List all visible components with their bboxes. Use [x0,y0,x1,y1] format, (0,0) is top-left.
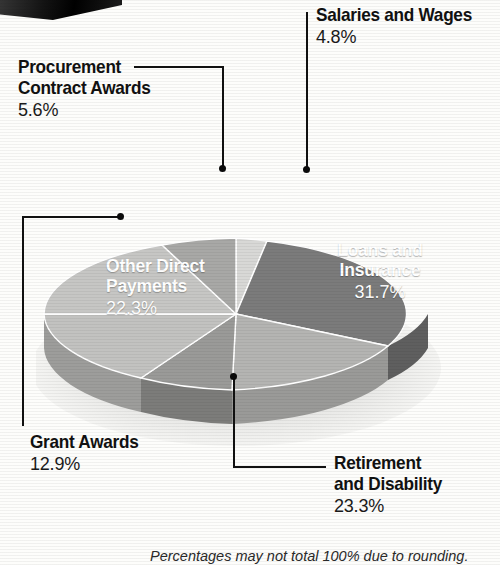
label-grant-awards-title: Grant Awards [30,431,139,452]
label-salaries-and-wages-title: Salaries and Wages [316,4,472,25]
label-procurement-contract-awards-title-line1: Procurement [18,56,151,77]
corner-wedge-decoration [0,0,122,20]
label-loans-and-insurance-title-line1: Loans and [310,240,450,260]
chart-canvas: Salaries and Wages 4.8% Procurement Cont… [0,0,500,565]
label-procurement-contract-awards-percent: 5.6% [18,99,161,122]
leader-dot-salaries-and-wages [303,166,310,173]
chart-footnote: Percentages may not total 100% due to ro… [150,548,500,564]
label-retirement-and-disability-title-line2: and Disability [334,473,442,494]
leader-line-grant-vertical [22,216,24,426]
leader-line-retirement-horizontal [233,466,326,468]
label-other-direct-payments-title-line2: Payments [106,276,266,296]
leader-dot-procurement-contract-awards [219,165,226,172]
leader-dot-other-direct-payments [117,213,124,220]
label-loans-and-insurance-percent: 31.7% [310,281,450,303]
label-loans-and-insurance-title-line2: Insurance [310,260,450,280]
label-procurement-contract-awards-title-line2: Contract Awards [18,77,151,98]
label-other-direct-payments: Other Direct Payments 22.3% [106,256,266,319]
label-loans-and-insurance: Loans and Insurance 31.7% [310,240,450,303]
label-retirement-and-disability: Retirement and Disability 23.3% [334,452,450,518]
label-salaries-and-wages: Salaries and Wages 4.8% [316,4,484,49]
label-grant-awards: Grant Awards 12.9% [30,431,147,476]
label-procurement-contract-awards: Procurement Contract Awards 5.6% [18,56,161,122]
label-grant-awards-percent: 12.9% [30,453,147,476]
leader-line-retirement-vertical [233,376,235,467]
label-salaries-and-wages-percent: 4.8% [316,26,484,49]
leader-line-salaries-and-wages [306,12,308,172]
leader-line-procurement-vertical [222,66,224,170]
label-retirement-and-disability-percent: 23.3% [334,495,450,518]
label-retirement-and-disability-title-line1: Retirement [334,452,442,473]
leader-line-grant-horizontal [22,216,122,218]
label-other-direct-payments-title-line1: Other Direct [106,256,266,276]
label-other-direct-payments-percent: 22.3% [106,297,266,319]
leader-dot-retirement-and-disability [230,373,237,380]
